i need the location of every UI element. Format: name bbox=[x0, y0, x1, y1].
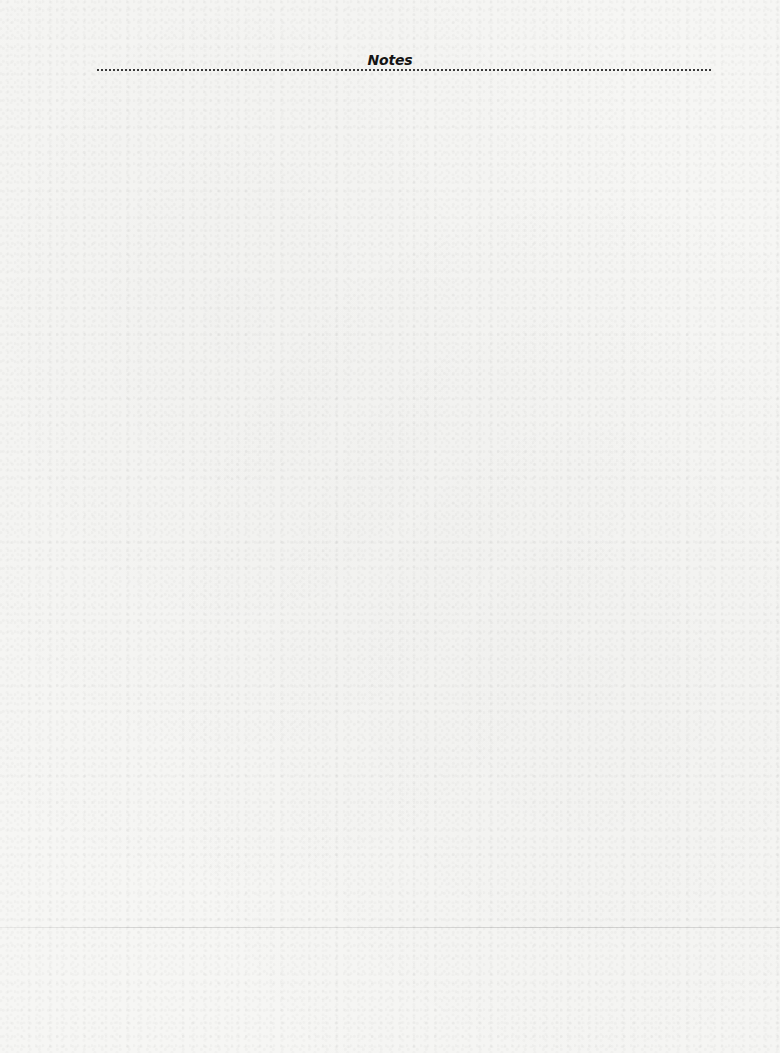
notes-writing-area bbox=[96, 80, 711, 1013]
paper-fold-crease bbox=[0, 927, 780, 928]
dotted-divider bbox=[96, 69, 711, 71]
page-header: Notes bbox=[0, 52, 780, 76]
page-title: Notes bbox=[0, 52, 780, 68]
notes-page: Notes bbox=[0, 0, 780, 1053]
